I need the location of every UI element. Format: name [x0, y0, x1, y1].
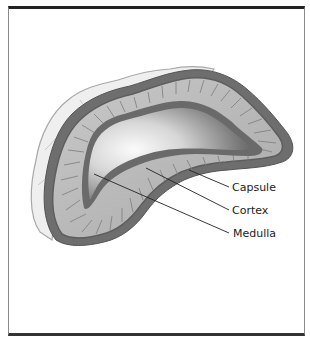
- label-capsule: Capsule: [232, 182, 276, 193]
- label-cortex: Cortex: [232, 205, 268, 216]
- label-medulla: Medulla: [233, 228, 276, 239]
- adrenal-gland-illustration: [0, 0, 310, 339]
